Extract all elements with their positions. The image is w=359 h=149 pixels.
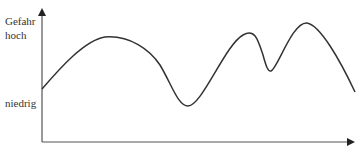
- danger-curve-diagram: [0, 0, 359, 149]
- danger-curve: [42, 23, 355, 106]
